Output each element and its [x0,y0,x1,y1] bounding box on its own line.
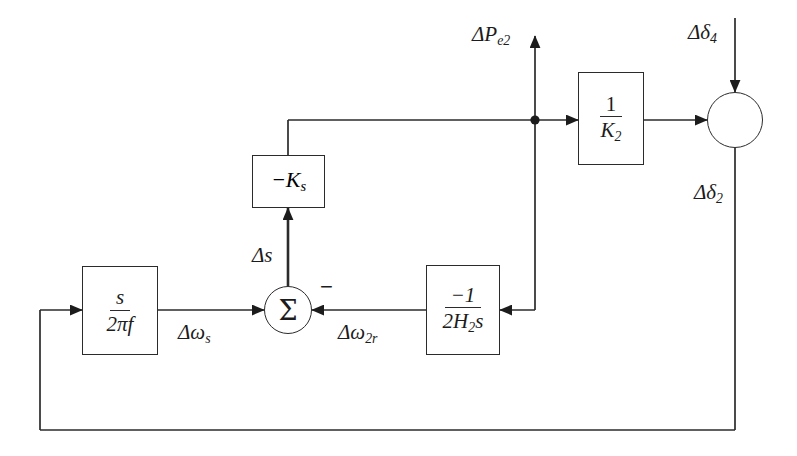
delta-delta4-subscript: 4 [710,31,717,46]
inertia-denominator-post: s [475,309,483,333]
delta-omega-s-base: Δω [178,320,205,344]
one-over-k2-block[interactable]: 1 K2 [578,72,644,165]
delta-omega-s-subscript: s [205,331,210,346]
s-over-2pif-denominator: 2πf [101,311,140,335]
negative-ks-block[interactable]: −Ks [252,155,325,208]
summing-junction-sigma[interactable]: Σ [264,286,312,334]
delta-delta2-base: Δδ [694,180,716,204]
negative-one-over-2h2s-block[interactable]: −1 2H2s [426,265,500,355]
k2-denominator-subscript: 2 [615,129,622,144]
wiring-layer [0,0,797,456]
k2-denominator-main: K [601,118,615,142]
s-over-2pif-block[interactable]: s 2πf [82,266,158,355]
delta-delta4-base: Δδ [688,20,710,44]
k2-denominator: K2 [595,117,628,144]
k2-expression: 1 K2 [595,93,628,144]
delta-omega-2r-subscript: 2r [365,331,377,346]
negative-ks-expression: −Ks [271,167,306,195]
s-over-2pif-numerator: s [110,286,130,310]
signal-node-dot [530,115,539,124]
negative-ks-subscript: s [300,179,306,195]
delta-pe2-base: ΔP [472,22,497,46]
s-over-2pif-expression: s 2πf [101,286,140,334]
sigma-negative-input-marker: − [320,274,333,300]
inertia-denominator: 2H2s [437,308,490,335]
block-diagram-canvas: s 2πf −Ks −1 2H2s 1 K2 Σ − ΔPe2 Δδ4 Δδ2 … [0,0,797,456]
k2-numerator: 1 [600,93,623,117]
negative-ks-main: −K [271,167,301,192]
delta-s-label: Δs [252,245,273,269]
delta-pe2-subscript: e2 [497,33,510,48]
delta-delta2-subscript: 2 [716,191,723,206]
inertia-numerator: −1 [445,284,482,308]
delta-omega-s-label: Δωs [178,322,211,346]
delta-pe2-label: ΔPe2 [472,24,510,48]
delta-s-base: Δs [252,243,273,267]
delta-omega-2r-label: Δω2r [338,322,377,346]
sigma-symbol: Σ [278,295,297,326]
delta-delta4-label: Δδ4 [688,22,717,46]
summing-junction-circle[interactable] [707,92,763,148]
delta-delta2-label: Δδ2 [694,182,723,206]
delta-omega-2r-base: Δω [338,320,365,344]
inertia-denominator-pre: 2H [443,309,469,333]
inertia-expression: −1 2H2s [437,284,490,335]
